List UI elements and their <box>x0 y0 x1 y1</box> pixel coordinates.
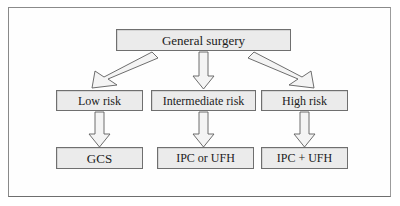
flow-node-label: High risk <box>282 95 327 107</box>
flow-node-ipc-or-ufh[interactable]: IPC or UFH <box>157 147 254 169</box>
arrow-general-surgery-to-low-risk <box>92 52 158 88</box>
flow-node-ipc-plus-ufh[interactable]: IPC + UFH <box>261 147 348 169</box>
flow-node-label: IPC + UFH <box>277 152 332 164</box>
flow-node-label: GCS <box>87 152 112 165</box>
flow-node-low-risk[interactable]: Low risk <box>56 90 143 111</box>
arrow-intermediate-risk-to-ipc-or-ufh <box>193 112 214 147</box>
flow-node-high-risk[interactable]: High risk <box>261 90 348 111</box>
flow-node-label: General surgery <box>162 34 245 47</box>
arrow-general-surgery-to-intermediate-risk <box>193 52 214 89</box>
flow-node-intermediate-risk[interactable]: Intermediate risk <box>151 90 256 111</box>
flow-node-label: Intermediate risk <box>163 95 245 107</box>
arrow-high-risk-to-ipc-plus-ufh <box>294 112 315 147</box>
arrow-low-risk-to-gcs <box>89 112 110 147</box>
arrow-general-surgery-to-high-risk <box>248 52 314 88</box>
diagram-canvas: General surgery Low risk Intermediate ri… <box>0 0 400 206</box>
flow-node-label: IPC or UFH <box>176 152 235 164</box>
flow-node-general-surgery[interactable]: General surgery <box>116 29 291 51</box>
flow-node-gcs[interactable]: GCS <box>56 147 143 169</box>
flow-node-label: Low risk <box>78 95 121 107</box>
